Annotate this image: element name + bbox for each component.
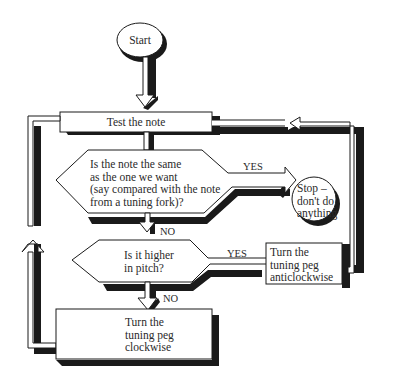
stop-line-3: anything xyxy=(297,207,337,220)
edge-label-higher-yes: YES xyxy=(227,248,247,261)
decision-same-line-4: from a tuning fork)? xyxy=(90,196,220,209)
stop-text: Stop – don't do anything xyxy=(297,182,337,220)
anticlockwise-line-3: anticlockwise xyxy=(270,271,333,284)
decision-higher-line-2: in pitch? xyxy=(124,262,174,275)
decision-same-text: Is the note the same as the one we want … xyxy=(90,158,220,208)
stop-line-2: don't do xyxy=(297,195,337,208)
clockwise-line-1: Turn the xyxy=(125,316,174,329)
anticlockwise-line-2: tuning peg xyxy=(270,259,333,272)
stop-line-1: Stop – xyxy=(297,182,337,195)
anticlockwise-text: Turn the tuning peg anticlockwise xyxy=(270,246,333,284)
edge-label-higher-no: NO xyxy=(163,293,178,306)
clockwise-line-3: clockwise xyxy=(125,341,174,354)
decision-same-line-2: as the one we want xyxy=(90,171,220,184)
test-note-label: Test the note xyxy=(60,116,212,129)
decision-higher-text: Is it higher in pitch? xyxy=(124,249,174,274)
clockwise-text: Turn the tuning peg clockwise xyxy=(125,316,174,354)
decision-same-line-3: (say compared with the note xyxy=(90,183,220,196)
anticlockwise-line-1: Turn the xyxy=(270,246,333,259)
edge-label-same-yes: YES xyxy=(243,161,263,174)
decision-higher-line-1: Is it higher xyxy=(124,249,174,262)
start-label: Start xyxy=(118,34,162,47)
edge-label-same-no: NO xyxy=(160,226,175,239)
clockwise-line-2: tuning peg xyxy=(125,329,174,342)
decision-same-line-1: Is the note the same xyxy=(90,158,220,171)
